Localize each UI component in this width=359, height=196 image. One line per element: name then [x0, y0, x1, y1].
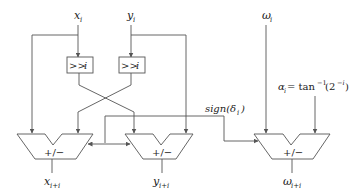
x-input-wires: [32, 25, 78, 133]
svg-text:i: i: [84, 60, 87, 71]
shifter-y: >> i: [119, 57, 145, 73]
cross-wires: [78, 73, 134, 133]
svg-text:−i: −i: [337, 79, 345, 87]
svg-text:i: i: [284, 87, 286, 95]
input-omega-label: ω i: [262, 9, 272, 24]
adder-x: +/−: [17, 134, 93, 173]
svg-text:(2: (2: [325, 81, 335, 92]
output-omega-label: ω i+i: [283, 175, 301, 190]
svg-text:): ): [345, 81, 349, 92]
svg-text:i: i: [133, 16, 135, 24]
svg-text:i+i: i+i: [291, 182, 301, 190]
adder-y: +/−: [125, 134, 193, 173]
svg-text:+/−: +/−: [283, 147, 303, 158]
svg-text:i: i: [270, 16, 272, 24]
svg-text:i: i: [80, 16, 82, 24]
adder-omega: +/−: [254, 134, 330, 173]
svg-text:i+i: i+i: [50, 182, 60, 190]
output-x-label: x i+i: [44, 175, 60, 190]
sign-wires: [88, 25, 266, 144]
input-y-label: y i: [126, 9, 135, 24]
svg-text:+/−: +/−: [44, 147, 64, 158]
svg-text:): ): [240, 103, 245, 114]
sign-label: sign(δ i ): [205, 103, 245, 117]
shifter-x: >> i: [67, 57, 93, 73]
svg-text:sign(δ: sign(δ: [205, 103, 236, 114]
svg-text:i: i: [237, 109, 239, 117]
input-x-label: x i: [74, 9, 82, 24]
svg-text:+/−: +/−: [152, 147, 172, 158]
cordic-diagram: x i y i ω i >> i >> i: [0, 0, 359, 196]
svg-text:i+i: i+i: [159, 182, 169, 190]
y-input-wires: [131, 25, 186, 133]
alpha-label: α i = tan −1 (2 −i ): [278, 79, 349, 95]
svg-text:= tan: = tan: [287, 81, 316, 92]
output-y-label: y i+i: [152, 175, 169, 190]
svg-text:i: i: [136, 60, 139, 71]
